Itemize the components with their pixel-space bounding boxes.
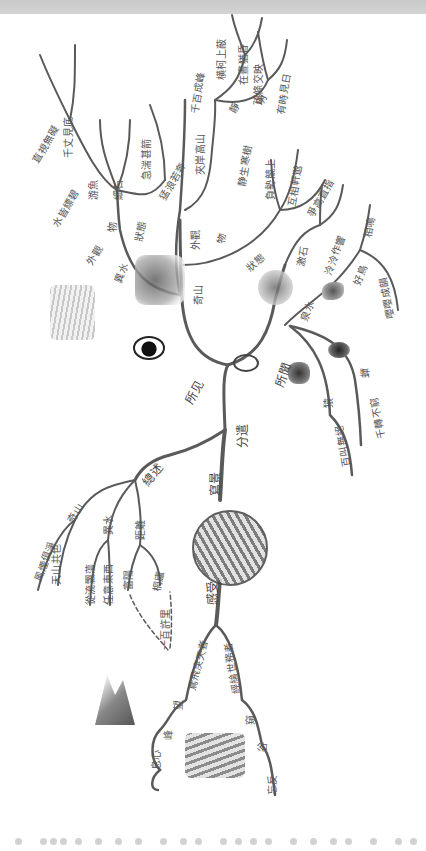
ear-icon <box>233 354 259 372</box>
eye-icon <box>133 336 165 360</box>
label-jiaan: 夾岸高山 <box>192 133 207 175</box>
label-feng: 峰 <box>160 730 175 741</box>
rock-illustration <box>258 270 293 305</box>
label-qishan: 奇山 <box>190 284 205 305</box>
label-shutiao: 疏條交映 <box>250 63 265 105</box>
label-wang: 望 <box>170 700 185 711</box>
label-zaizhou: 在晝猶昏 <box>235 43 250 85</box>
label-xishi: 細石 <box>110 179 125 200</box>
label-jituan: 急湍甚箭 <box>138 138 153 180</box>
label-renyi: 任意東西 <box>100 563 115 605</box>
globe-illustration <box>192 510 268 586</box>
waterfall-illustration <box>50 285 95 340</box>
label-hengke: 横柯上蔽 <box>213 38 228 80</box>
label-chan: 蟬 <box>357 368 372 379</box>
cicada-illustration <box>328 342 350 358</box>
label-xiejing: 寫景 <box>206 471 223 496</box>
label-yishui-wu: 物 <box>104 222 119 233</box>
label-ganshou: 感受 <box>203 580 220 605</box>
label-yishui-waiguan-2: 千丈見底 <box>60 116 75 158</box>
bird-illustration <box>322 282 344 300</box>
label-zongshu-yishui: 異水 <box>100 514 115 535</box>
label-fenlian: 分遣 <box>233 423 250 448</box>
label-distance-note: 一百許里 <box>157 608 172 650</box>
label-tianshan: 天山共色 <box>48 543 63 585</box>
label-youyu: 游魚 <box>85 179 100 200</box>
label-wangfan: 忘反 <box>264 774 279 795</box>
cliff-illustration <box>135 255 185 305</box>
label-congliu: 從流飄蕩 <box>82 563 97 605</box>
label-gu: 谷 <box>254 742 269 753</box>
label-fuyang: 富陽 <box>120 569 135 590</box>
label-juli: 距離 <box>132 519 147 540</box>
label-fushi: 負勢競上 <box>262 158 277 200</box>
footer-decoration <box>0 836 426 848</box>
label-kui: 窺 <box>242 715 257 726</box>
valley-illustration <box>185 733 245 778</box>
label-xixin: 息心 <box>148 749 163 770</box>
label-qishan-waiguan: 外觀 <box>187 229 202 250</box>
label-yuan: 猿 <box>320 398 335 409</box>
